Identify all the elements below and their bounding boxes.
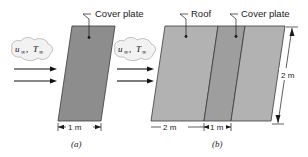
panel-b-dim-height-arrow-top [290, 28, 295, 36]
panel-a-flow-arrow-head-1 [50, 67, 57, 72]
panel-a-dim-arrow-right [95, 125, 101, 129]
panel-a-dimension-width-label: 1 m [68, 123, 82, 132]
panel-b-dimension-roof-width: 2 m [151, 122, 210, 132]
panel-a-dimension-width: 1 m [58, 122, 101, 132]
panel-b-dimension-cover-plate-width-label: 1 m [210, 123, 224, 132]
panel-b-flow-velocity-symbol: u [118, 44, 123, 54]
panel-b-dimension-roof-width-label: 2 m [163, 123, 177, 132]
panel-b-flow-arrows [117, 67, 154, 84]
panel-a: Cover plate u ∞ , T ∞ [12, 8, 144, 149]
panel-a-flow-velocity-symbol: u [15, 44, 20, 54]
panel-b-dimension-cover-plate-width: 1 m [204, 122, 231, 132]
panel-b-flow-arrow-head-2 [147, 79, 154, 84]
panel-b-dimension-height-label: 2 m [281, 71, 295, 80]
panel-a-flow-separator: , [26, 44, 28, 54]
panel-a-flow-arrows [14, 67, 57, 84]
panel-b-roof-leader-dot [185, 35, 188, 38]
panel-b-flow-separator: , [129, 44, 131, 54]
panel-a-cover-plate-leader-dot [88, 36, 91, 39]
panel-b-cover-plate-leader [230, 14, 238, 19]
panel-b-cover-plate-leader-dot [235, 35, 238, 38]
panel-a-caption: (a) [71, 139, 82, 149]
heat-transfer-figure: Cover plate u ∞ , T ∞ [0, 0, 308, 157]
panel-a-flow-arrow-head-2 [50, 79, 57, 84]
panel-a-cover-plate-shape [58, 26, 115, 121]
panel-a-cover-plate-label: Cover plate [95, 8, 144, 19]
panel-b-cover-plate-label: Cover plate [241, 8, 290, 19]
panel-a-cover-plate-leader [83, 14, 91, 19]
panel-b-dim-height-arrow-bottom [276, 115, 281, 123]
panel-a-flow-temperature-subscript: ∞ [39, 49, 43, 55]
panel-b-caption: (b) [212, 139, 223, 149]
panel-b-flow-arrow-head-1 [147, 67, 154, 72]
panel-b-flow-temperature-subscript: ∞ [142, 49, 146, 55]
panel-a-flow-velocity-subscript: ∞ [21, 49, 25, 55]
panel-b: Roof Cover plate u ∞ , T ∞ [115, 8, 301, 149]
panel-b-roof-label: Roof [191, 8, 211, 19]
panel-b-flow-velocity-subscript: ∞ [124, 49, 128, 55]
panel-b-roof-leader [180, 14, 188, 19]
panel-a-dim-arrow-left [58, 125, 64, 129]
figure-canvas: Cover plate u ∞ , T ∞ [0, 0, 308, 157]
